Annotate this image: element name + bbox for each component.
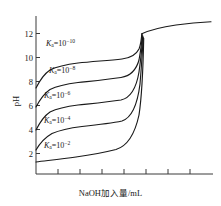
series-label-ka-1e-10: Ka=10−10 (46, 38, 75, 48)
series-label-exponent: −6 (64, 90, 70, 96)
x-axis-title: NaOH加入量/mL (0, 186, 221, 198)
series-label-ka-1e-2: Ka=10−2 (44, 140, 70, 150)
y-tick-label-12: 12 (25, 29, 34, 39)
series-label-ka-1e-8: Ka=10−8 (49, 65, 75, 75)
x-axis-ticks (58, 169, 190, 174)
series-label-exponent: −4 (64, 115, 70, 121)
series-label-ka-1e-6: Ka=10−6 (44, 90, 70, 100)
y-tick-label-6: 6 (29, 101, 33, 111)
y-axis-ticks (36, 34, 40, 154)
series-label-equals-base: =10 (57, 66, 70, 75)
y-axis-title-text: pH (11, 96, 21, 106)
y-axis-title: pH (11, 81, 21, 121)
y-tick-label-8: 8 (29, 77, 33, 87)
curve-merged-excess-base (142, 22, 211, 34)
series-label-equals-base: =10 (52, 116, 65, 125)
x-axis-title-text: NaOH加入量/mL (79, 188, 142, 198)
titration-curve-figure: 12 10 8 6 4 2 pH NaOH加入量/mL Ka=10−10 (0, 0, 221, 206)
chart-plot-area: 12 10 8 6 4 2 (0, 0, 221, 206)
series-label-exponent: −2 (64, 140, 70, 146)
series-label-equals-base: =10 (52, 141, 65, 150)
y-tick-label-2: 2 (29, 149, 33, 159)
series-label-exponent: −10 (66, 38, 75, 44)
series-label-equals-base: =10 (54, 39, 67, 48)
series-label-equals-base: =10 (52, 91, 65, 100)
y-tick-label-10: 10 (25, 53, 34, 63)
y-tick-label-4: 4 (29, 125, 34, 135)
series-label-ka-1e-4: Ka=10−4 (44, 115, 70, 125)
series-label-exponent: −8 (69, 65, 75, 71)
